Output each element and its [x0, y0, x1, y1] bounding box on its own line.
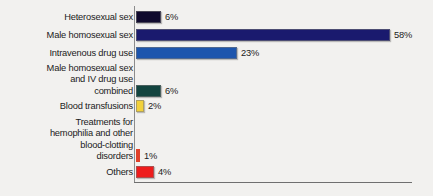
category-label: Male homosexual sex and IV drug use comb… [9, 63, 133, 97]
bar-value-label: 6% [165, 86, 178, 96]
bar-group: 23% [136, 47, 259, 59]
bar-group: 6% [136, 85, 178, 97]
bar-group: 6% [136, 11, 178, 23]
bar-group: 1% [136, 149, 157, 162]
chart-row: Heterosexual sex 6% [0, 10, 433, 26]
chart-row: Treatments for hemophilia and other bloo… [0, 117, 433, 165]
category-label: Heterosexual sex [9, 12, 133, 23]
chart-row: Male homosexual sex 58% [0, 28, 433, 44]
chart-row: Intravenous drug use 23% [0, 46, 433, 62]
bar-intravenous-drug-use [136, 47, 237, 59]
category-label: Others [9, 167, 133, 178]
category-label: Blood transfusions [9, 101, 133, 112]
category-label: Male homosexual sex [9, 30, 133, 41]
category-label: Treatments for hemophilia and other bloo… [9, 117, 133, 163]
bar-value-label: 58% [394, 30, 412, 40]
category-label: Intravenous drug use [9, 48, 133, 59]
value-axis-baseline [134, 182, 412, 183]
bar-male-homosexual-and-iv-drug-use [136, 85, 161, 97]
chart-row: Male homosexual sex and IV drug use comb… [0, 63, 433, 99]
bar-group: 58% [136, 29, 412, 41]
bar-blood-transfusions [136, 100, 144, 112]
bar-value-label: 23% [241, 48, 259, 58]
bar-group: 2% [136, 100, 161, 112]
bar-value-label: 4% [158, 167, 171, 177]
bar-hemophilia-treatments [136, 149, 140, 162]
bar-male-homosexual-sex [136, 29, 390, 41]
bar-value-label: 1% [144, 151, 157, 161]
bar-chart: Heterosexual sex 6% Male homosexual sex … [0, 0, 433, 196]
bar-value-label: 6% [165, 12, 178, 22]
chart-row: Blood transfusions 2% [0, 100, 433, 116]
bar-others [136, 166, 154, 178]
bar-group: 4% [136, 166, 171, 178]
bar-heterosexual-sex [136, 11, 161, 23]
bar-value-label: 2% [148, 101, 161, 111]
chart-row: Others 4% [0, 166, 433, 182]
